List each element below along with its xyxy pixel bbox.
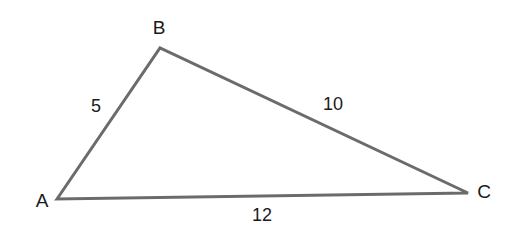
side-length-ac: 12 bbox=[252, 205, 272, 225]
side-length-ab: 5 bbox=[91, 96, 101, 116]
vertex-label-a: A bbox=[36, 190, 49, 211]
triangle-abc bbox=[57, 48, 468, 199]
side-length-bc: 10 bbox=[323, 94, 343, 114]
triangle-diagram: A B C 5 10 12 bbox=[0, 0, 527, 241]
vertex-label-b: B bbox=[153, 17, 166, 38]
vertex-label-c: C bbox=[477, 181, 491, 202]
